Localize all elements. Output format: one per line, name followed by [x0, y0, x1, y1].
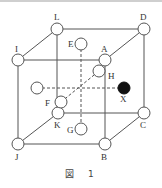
label-B: B [101, 152, 107, 162]
node-K [52, 107, 64, 119]
node-F [55, 96, 67, 108]
label-I: I [15, 44, 18, 54]
label-G: G [67, 125, 74, 135]
node-C [138, 107, 150, 119]
figure-caption: 図 1 [65, 169, 94, 179]
node-X-filled [118, 82, 130, 94]
node-E [75, 38, 87, 50]
node-unlabeled [31, 82, 43, 94]
label-X: X [120, 94, 127, 104]
cube-diagram: L D I A E H X F K G C J B 図 1 [0, 0, 162, 188]
label-J: J [15, 152, 19, 162]
node-A [99, 54, 111, 66]
label-A: A [101, 44, 108, 54]
edge-I-L [18, 29, 57, 60]
node-I [12, 54, 24, 66]
label-L: L [54, 12, 60, 22]
label-K: K [54, 120, 61, 130]
edge-B-C [105, 113, 144, 144]
label-D: D [140, 12, 147, 22]
label-C: C [140, 120, 146, 130]
node-B [99, 138, 111, 150]
node-G [75, 123, 87, 135]
edge-J-K [18, 113, 58, 144]
label-E: E [68, 39, 74, 49]
edge-A-D [105, 29, 144, 60]
node-L [51, 23, 63, 35]
node-J [12, 138, 24, 150]
dashed-axes [37, 44, 124, 129]
caption-number: 1 [88, 169, 94, 179]
label-H: H [108, 71, 115, 81]
node-D [138, 23, 150, 35]
caption-prefix: 図 [65, 169, 74, 179]
node-H [93, 65, 105, 77]
dashed-F-H [61, 71, 99, 102]
label-F: F [45, 98, 50, 108]
